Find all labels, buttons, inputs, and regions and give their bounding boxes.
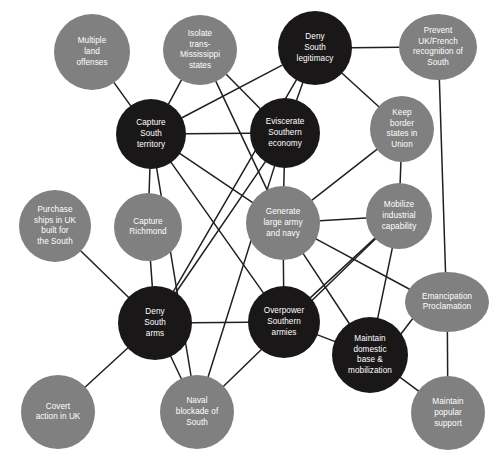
node-shape-eviscerate-southern-economy[interactable]	[250, 98, 320, 168]
network-canvas: MultiplelandoffensesIsolatetrans-Mississ…	[0, 0, 501, 465]
edge-purchase-ships-in-uk-built-for-the-south--deny-south-arms	[81, 251, 129, 297]
edge-deny-south-legitimacy--eviscerate-southern-economy	[297, 83, 303, 100]
edge-overpower-southern-armies--maintain-domestic-base-mobilization	[318, 335, 335, 341]
edge-isolate-trans-mississippi-states--capture-south-territory	[169, 80, 182, 104]
edge-emancipation-proclamation--maintain-domestic-base-mobilization	[401, 319, 412, 333]
node-shape-maintain-popular-support[interactable]	[411, 376, 485, 450]
node-shape-keep-border-states-in-union[interactable]	[370, 96, 434, 162]
node-shape-generate-large-army-and-navy[interactable]	[246, 186, 320, 260]
node-covert-action-in-uk[interactable]: Covertaction in UK	[21, 375, 95, 449]
node-shape-deny-south-legitimacy[interactable]	[278, 11, 352, 85]
node-prevent-uk-french-recognition-of-south[interactable]: PreventUK/Frenchrecognition ofSouth	[399, 14, 477, 80]
edge-mobilize-industrial-capability--overpower-southern-armies	[310, 238, 374, 297]
node-deny-south-arms[interactable]: DenySoutharms	[118, 286, 192, 360]
node-shape-deny-south-arms[interactable]	[118, 286, 192, 360]
node-multiple-land-offenses[interactable]: Multiplelandoffenses	[54, 14, 130, 90]
node-shape-covert-action-in-uk[interactable]	[21, 375, 95, 449]
node-maintain-domestic-base-mobilization[interactable]: Maintaindomesticbase &mobilization	[332, 317, 408, 393]
node-shape-mobilize-industrial-capability[interactable]	[366, 183, 432, 249]
node-deny-south-legitimacy[interactable]: DenySouthlegitimacy	[278, 11, 352, 85]
node-isolate-trans-mississippi-states[interactable]: Isolatetrans-Mississippistates	[163, 15, 237, 85]
node-shape-emancipation-proclamation[interactable]	[405, 272, 489, 332]
node-shape-prevent-uk-french-recognition-of-south[interactable]	[399, 14, 477, 80]
node-mobilize-industrial-capability[interactable]: Mobilizeindustrialcapability	[366, 183, 432, 249]
node-overpower-southern-armies[interactable]: OverpowerSouthernarmies	[248, 286, 320, 358]
nodes-layer: MultiplelandoffensesIsolatetrans-Mississ…	[19, 11, 489, 450]
node-keep-border-states-in-union[interactable]: Keepborderstates inUnion	[370, 96, 434, 162]
edge-capture-south-territory--generate-large-army-and-navy	[180, 154, 252, 203]
node-purchase-ships-in-uk-built-for-the-south[interactable]: Purchaseships in UKbuilt forthe South	[19, 190, 91, 262]
edge-prevent-uk-french-recognition-of-south--emancipation-proclamation	[439, 80, 445, 272]
node-shape-maintain-domestic-base-mobilization[interactable]	[332, 317, 408, 393]
node-eviscerate-southern-economy[interactable]: EviscerateSoutherneconomy	[250, 98, 320, 168]
edge-keep-border-states-in-union--mobilize-industrial-capability	[400, 162, 401, 183]
edge-generate-large-army-and-navy--mobilize-industrial-capability	[320, 218, 366, 221]
node-capture-south-territory[interactable]: CaptureSouthterritory	[116, 99, 186, 169]
edge-multiple-land-offenses--capture-south-territory	[114, 83, 130, 106]
node-emancipation-proclamation[interactable]: EmancipationProclamation	[405, 272, 489, 332]
edge-maintain-domestic-base-mobilization--maintain-popular-support	[400, 378, 418, 391]
node-shape-overpower-southern-armies[interactable]	[248, 286, 320, 358]
node-shape-capture-richmond[interactable]	[114, 193, 182, 261]
edge-deny-south-arms--naval-blockade-of-south	[171, 356, 181, 378]
edge-capture-south-territory--capture-richmond	[149, 169, 150, 193]
node-shape-multiple-land-offenses[interactable]	[54, 14, 130, 90]
network-diagram: MultiplelandoffensesIsolatetrans-Mississ…	[0, 0, 501, 465]
node-generate-large-army-and-navy[interactable]: Generatelarge armyand navy	[246, 186, 320, 260]
edge-keep-border-states-in-union--generate-large-army-and-navy	[312, 149, 377, 200]
edge-mobilize-industrial-capability--maintain-domestic-base-mobilization	[378, 248, 393, 317]
edge-capture-richmond--deny-south-arms	[150, 261, 152, 286]
node-naval-blockade-of-south[interactable]: Navalblockade ofSouth	[160, 375, 234, 449]
node-shape-capture-south-territory[interactable]	[116, 99, 186, 169]
edge-deny-south-arms--covert-action-in-uk	[85, 348, 127, 387]
node-maintain-popular-support[interactable]: Maintainpopularsupport	[411, 376, 485, 450]
edge-deny-south-legitimacy--keep-border-states-in-union	[342, 73, 379, 106]
node-capture-richmond[interactable]: CaptureRichmond	[114, 193, 182, 261]
node-shape-isolate-trans-mississippi-states[interactable]	[163, 15, 237, 85]
node-shape-naval-blockade-of-south[interactable]	[160, 375, 234, 449]
node-shape-purchase-ships-in-uk-built-for-the-south[interactable]	[19, 190, 91, 262]
